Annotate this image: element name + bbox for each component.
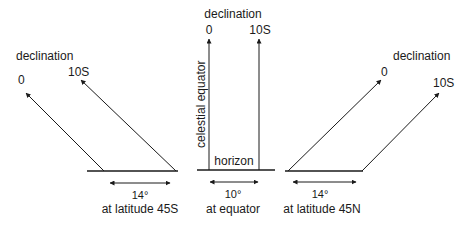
arrow-declination-0 xyxy=(26,93,104,171)
caption: at latitude 45S xyxy=(102,202,179,216)
caption: at latitude 45N xyxy=(283,202,360,216)
arrow-label-10s: 10S xyxy=(249,23,270,37)
arrow-label-10s: 10S xyxy=(68,65,89,79)
panel-latitude-45s: declination 0 10S 14° at latitude 45S xyxy=(16,49,178,216)
celestial-equator-label: celestial equator xyxy=(194,61,208,148)
arrow-declination-10s xyxy=(81,80,176,171)
span-label: 10° xyxy=(225,188,242,200)
arrow-label-0: 0 xyxy=(206,23,213,37)
declination-title: declination xyxy=(204,7,261,21)
panel-latitude-45n: declination 0 10S 14° at latitude 45N xyxy=(283,49,454,216)
arrow-declination-0 xyxy=(288,80,381,171)
arrow-label-10s: 10S xyxy=(433,76,454,90)
panel-equator: declination 0 10S celestial equator hori… xyxy=(194,7,275,216)
arrow-label-0: 0 xyxy=(18,73,25,87)
declination-title: declination xyxy=(16,49,73,63)
arrow-declination-10s xyxy=(362,93,439,171)
declination-diagram: declination 0 10S 14° at latitude 45S de… xyxy=(0,0,468,226)
declination-title: declination xyxy=(393,49,450,63)
horizon-label: horizon xyxy=(214,154,253,168)
arrow-label-0: 0 xyxy=(381,65,388,79)
span-label: 14° xyxy=(132,189,149,201)
caption: at equator xyxy=(206,202,260,216)
span-label: 14° xyxy=(312,188,329,200)
